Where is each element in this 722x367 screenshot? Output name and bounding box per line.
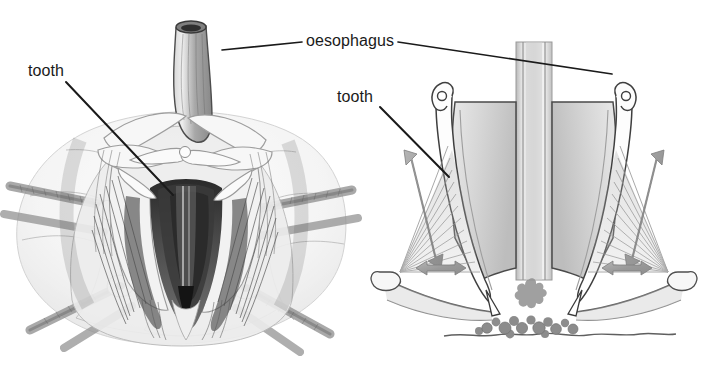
oesophagus-tube-right bbox=[516, 42, 552, 280]
illustration-canvas bbox=[0, 0, 722, 367]
leader-oesophagus-left bbox=[222, 42, 302, 50]
leader-oesophagus-right bbox=[398, 42, 612, 74]
figure-root: oesophagus tooth tooth bbox=[0, 0, 722, 367]
right-panel-cross-section bbox=[371, 42, 697, 338]
food-bolus-internal bbox=[515, 278, 547, 308]
label-tooth-right: tooth bbox=[337, 89, 373, 105]
label-tooth-left: tooth bbox=[28, 63, 64, 79]
label-oesophagus: oesophagus bbox=[306, 33, 394, 49]
